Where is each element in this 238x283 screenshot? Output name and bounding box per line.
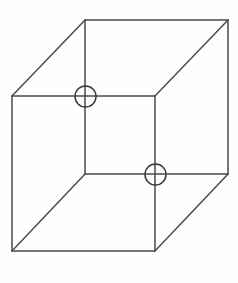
cube-connector-bottom-right <box>155 174 228 251</box>
cube-connector-top-right <box>155 20 228 96</box>
necker-cube-figure <box>0 0 238 283</box>
cube-connector-top-left <box>12 20 85 96</box>
cube-connector-bottom-left <box>12 174 85 251</box>
necker-cube-drawing <box>0 0 238 283</box>
